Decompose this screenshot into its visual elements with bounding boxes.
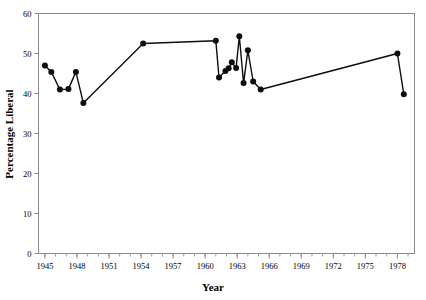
y-tick-label: 40: [23, 89, 32, 99]
data-point: [140, 41, 146, 47]
y-tick-label: 0: [27, 249, 31, 259]
x-tick-label: 1966: [261, 261, 278, 271]
data-point: [80, 100, 86, 106]
x-tick-label: 1978: [389, 261, 406, 271]
data-point: [233, 65, 239, 71]
x-tick-label: 1969: [293, 261, 310, 271]
y-tick-label: 30: [23, 129, 32, 139]
x-axis-major-ticks: [45, 254, 398, 259]
x-tick-label: 1951: [101, 261, 118, 271]
data-point: [250, 79, 256, 85]
y-tick-label: 60: [23, 9, 32, 19]
data-point: [236, 33, 242, 39]
y-axis-major-ticks: [35, 14, 39, 254]
data-point: [401, 91, 407, 97]
data-point: [241, 80, 247, 86]
data-point: [258, 87, 264, 93]
x-tick-label: 1948: [68, 261, 85, 271]
chart-container: 1945194819511954195719601963196619691972…: [0, 0, 426, 300]
data-point: [42, 63, 48, 69]
x-tick-label: 1975: [357, 261, 374, 271]
data-point: [48, 69, 54, 75]
x-tick-label: 1954: [133, 261, 151, 271]
data-point: [226, 65, 232, 71]
data-point: [57, 87, 63, 93]
y-tick-label: 10: [23, 209, 32, 219]
x-tick-label: 1963: [229, 261, 246, 271]
data-point: [394, 51, 400, 57]
data-point: [65, 86, 71, 92]
x-tick-label: 1945: [36, 261, 53, 271]
data-point: [213, 38, 219, 44]
x-tick-label: 1957: [165, 261, 182, 271]
x-axis-tick-labels: 1945194819511954195719601963196619691972…: [36, 261, 406, 271]
x-tick-label: 1972: [325, 261, 342, 271]
y-tick-label: 50: [23, 49, 32, 59]
y-tick-label: 20: [23, 169, 32, 179]
x-axis-title: Year: [202, 281, 224, 293]
data-point: [73, 69, 79, 75]
y-axis-tick-labels: 0102030405060: [23, 9, 32, 259]
data-point: [229, 59, 235, 65]
x-tick-label: 1960: [197, 261, 214, 271]
plot-frame: [39, 14, 415, 254]
y-axis-title: Percentage Liberal: [3, 89, 15, 178]
data-point: [216, 75, 222, 81]
data-series-markers: [42, 33, 407, 106]
line-chart: 1945194819511954195719601963196619691972…: [0, 0, 426, 300]
data-point: [245, 47, 251, 53]
